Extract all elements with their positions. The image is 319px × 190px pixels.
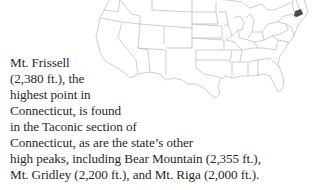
caption-line: Connecticut, as are the state’s other [10, 135, 261, 151]
caption-line: in the Taconic section of [10, 119, 261, 135]
caption-line: Mt. Frissell [10, 55, 261, 71]
connecticut-highlight [294, 9, 303, 17]
caption-line: highest point in [10, 87, 261, 103]
caption-line: high peaks, including Bear Mountain (2,3… [10, 151, 261, 167]
caption-line: Mt. Gridley (2,200 ft.), and Mt. Riga (2… [10, 167, 261, 183]
caption-line: Connecticut, is found [10, 103, 261, 119]
caption-line: (2,380 ft.), the [10, 71, 261, 87]
caption-text: Mt. Frissell (2,380 ft.), the highest po… [10, 55, 261, 183]
